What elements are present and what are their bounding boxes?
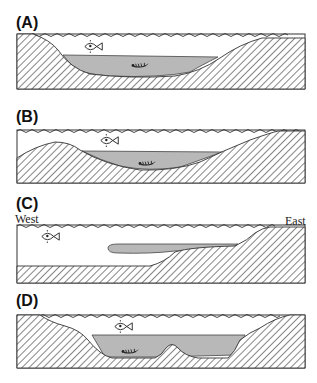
diagram-canvas bbox=[0, 0, 317, 383]
panel-c bbox=[17, 225, 305, 284]
panel-b bbox=[17, 130, 305, 184]
panel-d bbox=[17, 315, 305, 369]
panel-a bbox=[17, 34, 305, 90]
